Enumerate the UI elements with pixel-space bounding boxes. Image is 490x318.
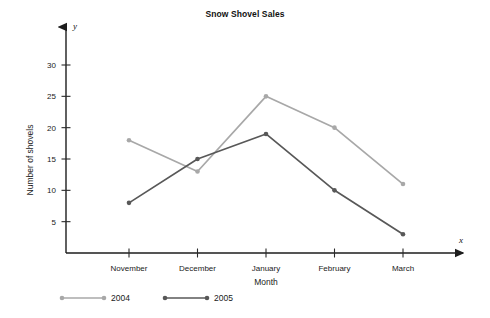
y-tick-label: 10 bbox=[47, 186, 56, 195]
legend-swatch-marker bbox=[163, 296, 168, 301]
x-axis-symbol: x bbox=[458, 235, 463, 245]
data-point-2004 bbox=[264, 94, 269, 99]
y-tick-label: 15 bbox=[47, 155, 56, 164]
data-point-2005 bbox=[127, 201, 132, 206]
x-tick-label: February bbox=[318, 264, 350, 273]
legend-swatch-marker bbox=[60, 296, 65, 301]
chart-title: Snow Shovel Sales bbox=[205, 9, 284, 19]
series-line-2004 bbox=[129, 96, 403, 184]
series-line-2005 bbox=[129, 134, 403, 234]
y-axis-symbol: y bbox=[72, 21, 77, 31]
legend-swatch-marker bbox=[102, 296, 107, 301]
data-point-2004 bbox=[332, 125, 337, 130]
x-axis-title: Month bbox=[254, 277, 278, 287]
y-tick-label: 20 bbox=[47, 124, 56, 133]
snow-shovel-sales-chart: Snow Shovel Sales y x Number of shovels … bbox=[0, 0, 490, 318]
data-point-2004 bbox=[401, 182, 406, 187]
data-point-2005 bbox=[195, 157, 200, 162]
legend-group: 20042005 bbox=[60, 293, 233, 303]
chart-container: Snow Shovel Sales y x Number of shovels … bbox=[0, 0, 490, 318]
data-point-2005 bbox=[264, 132, 269, 137]
x-tick-label: March bbox=[392, 264, 414, 273]
legend-label-2004: 2004 bbox=[111, 293, 130, 303]
data-point-2004 bbox=[195, 169, 200, 174]
x-ticks-group: NovemberDecemberJanuaryFebruaryMarch bbox=[111, 249, 415, 274]
series-group bbox=[127, 94, 406, 236]
x-tick-label: January bbox=[252, 264, 280, 273]
x-tick-label: November bbox=[111, 264, 148, 273]
legend-swatch-marker bbox=[205, 296, 210, 301]
y-tick-label: 30 bbox=[47, 61, 56, 70]
legend-label-2005: 2005 bbox=[214, 293, 233, 303]
data-point-2005 bbox=[401, 232, 406, 237]
y-ticks-group: 51015202530 bbox=[47, 61, 70, 227]
y-tick-label: 5 bbox=[52, 218, 57, 227]
x-tick-label: December bbox=[179, 264, 216, 273]
data-point-2005 bbox=[332, 188, 337, 193]
y-tick-label: 25 bbox=[47, 92, 56, 101]
data-point-2004 bbox=[127, 138, 132, 143]
y-axis-title: Number of shovels bbox=[25, 125, 35, 196]
